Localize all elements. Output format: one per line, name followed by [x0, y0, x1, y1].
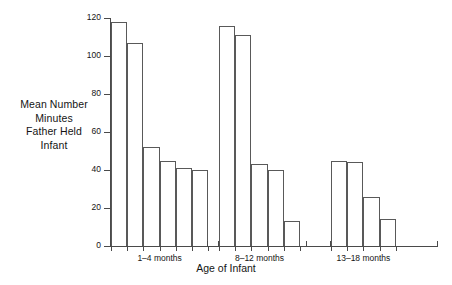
- x-axis-group-boundary-tick: [306, 241, 307, 247]
- bar: [331, 161, 347, 247]
- y-axis-tick-label: 60: [92, 126, 101, 137]
- x-axis-minor-tick: [300, 246, 301, 251]
- x-axis-minor-tick: [284, 246, 285, 251]
- x-axis-group-boundary-tick: [437, 241, 438, 247]
- x-axis-minor-tick: [176, 246, 177, 251]
- x-axis-minor-tick: [111, 246, 112, 251]
- bar-chart-figure: Mean Number Minutes Father Held Infant 0…: [0, 0, 452, 285]
- x-axis-minor-tick: [208, 246, 209, 251]
- bar: [380, 219, 396, 246]
- y-axis-title-line-4: Infant: [6, 139, 102, 153]
- x-axis-minor-tick: [268, 246, 269, 251]
- y-axis-title-line-3: Father Held: [6, 125, 102, 139]
- y-axis-tick-label: 20: [92, 202, 101, 213]
- bar: [219, 26, 235, 246]
- bar: [363, 197, 379, 246]
- x-axis-group-boundary-tick: [218, 241, 219, 247]
- x-axis-group-boundary-tick: [110, 241, 111, 247]
- y-axis-tick: 120: [104, 18, 110, 19]
- bar: [235, 35, 251, 246]
- bar: [284, 221, 300, 246]
- x-axis-minor-tick: [235, 246, 236, 251]
- y-axis-tick: 80: [104, 94, 110, 95]
- x-axis-title: Age of Infant: [0, 262, 452, 275]
- x-axis-minor-tick: [143, 246, 144, 251]
- y-axis-tick-label: 0: [96, 240, 101, 251]
- y-axis-tick-label: 120: [87, 12, 101, 23]
- x-axis-minor-tick: [363, 246, 364, 251]
- x-axis-minor-tick: [380, 246, 381, 251]
- x-axis-minor-tick: [251, 246, 252, 251]
- y-axis-title-line-1: Mean Number: [6, 98, 102, 112]
- y-axis-tick: 20: [104, 208, 110, 209]
- bar: [160, 161, 176, 247]
- y-axis-title: Mean Number Minutes Father Held Infant: [6, 98, 102, 152]
- x-axis-minor-tick: [219, 246, 220, 251]
- y-axis-tick: 100: [104, 56, 110, 57]
- plot-area: 020406080100120 1–4 months8–12 months13–…: [110, 18, 437, 246]
- bar: [127, 43, 143, 246]
- x-axis-group-boundary-tick: [330, 241, 331, 247]
- y-axis-tick-label: 40: [92, 164, 101, 175]
- y-axis-title-line-2: Minutes: [6, 112, 102, 126]
- bar: [176, 168, 192, 246]
- y-axis-tick-label: 80: [92, 88, 101, 99]
- bar: [192, 170, 208, 246]
- bar: [268, 170, 284, 246]
- y-axis-tick: 40: [104, 170, 110, 171]
- x-axis-minor-tick: [396, 246, 397, 251]
- bar: [143, 147, 159, 246]
- x-axis-minor-tick: [347, 246, 348, 251]
- x-axis-minor-tick: [192, 246, 193, 251]
- x-axis-group-boundary-tick: [207, 241, 208, 247]
- bar: [111, 22, 127, 246]
- x-axis-minor-tick: [331, 246, 332, 251]
- x-axis-minor-tick: [160, 246, 161, 251]
- x-axis-minor-tick: [127, 246, 128, 251]
- y-axis-tick-label: 100: [87, 50, 101, 61]
- bar: [347, 162, 363, 246]
- bar: [251, 164, 267, 246]
- y-axis-tick: 60: [104, 132, 110, 133]
